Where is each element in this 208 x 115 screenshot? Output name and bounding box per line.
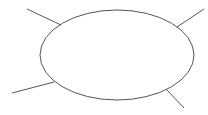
branch-line-bottom-right [166,89,184,108]
branch-lines [12,9,204,108]
center-oval [40,10,194,100]
spider-diagram [0,0,208,115]
branch-line-bottom-left [12,82,54,93]
branch-line-top-left [27,9,61,25]
branch-line-top-right [177,9,204,27]
